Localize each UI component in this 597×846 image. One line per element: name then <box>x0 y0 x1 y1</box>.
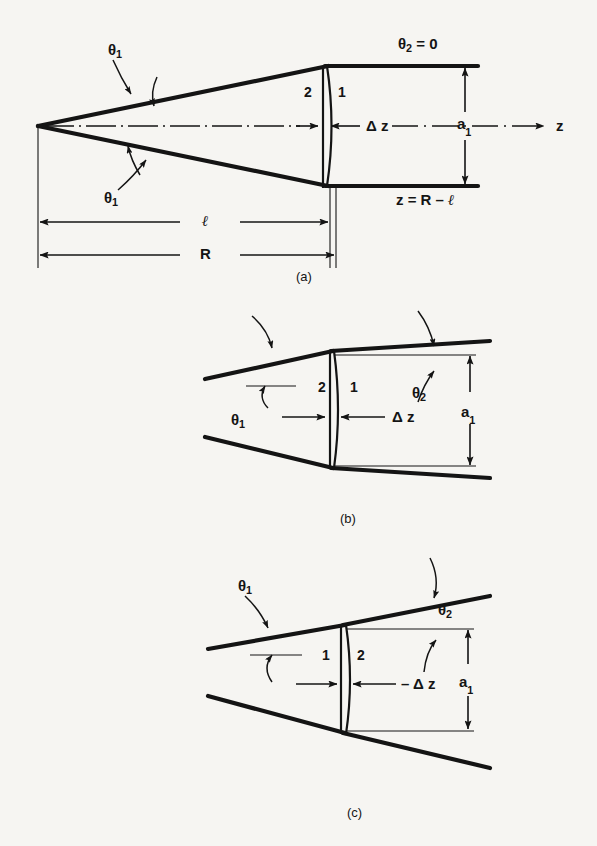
upper-wall-in-b <box>205 351 333 379</box>
label-region-1-c: 1 <box>322 648 330 662</box>
theta1-pointer-c <box>245 596 268 628</box>
label-theta1-top-a: θ1 <box>108 42 122 60</box>
figure-drawing <box>0 0 597 846</box>
label-theta1-top-a-sub: 1 <box>116 48 122 60</box>
label-theta2-c-sub: 2 <box>446 608 452 620</box>
lower-wall-out-b <box>331 468 490 478</box>
cone-lower-wall-a <box>38 126 328 186</box>
theta2-angle-arc-c <box>424 640 436 672</box>
theta1-pointer-b <box>252 316 272 348</box>
label-a1-b: a1 <box>461 404 475 426</box>
label-a1-c-sub: 1 <box>467 684 473 696</box>
lower-wall-out-c <box>343 733 490 768</box>
upper-wall-in-c <box>208 625 345 649</box>
label-theta1-c-sub: 1 <box>246 584 252 596</box>
label-z-axis-a: z <box>556 118 564 133</box>
lower-wall-in-b <box>205 437 333 468</box>
cone-upper-wall-a <box>38 66 328 126</box>
lower-wall-in-c <box>208 696 345 733</box>
theta2-pointer-c <box>430 558 436 598</box>
wavefront-arc-c <box>346 625 350 734</box>
caption-panel-a: (a) <box>296 270 312 283</box>
label-region-2-a: 2 <box>304 85 312 99</box>
label-theta2-b-sub: 2 <box>420 391 426 403</box>
panel-a-geometry <box>38 60 544 268</box>
label-a1-b-sub: 1 <box>469 414 475 426</box>
label-region-2-c: 2 <box>357 648 365 662</box>
label-dim-R-a: R <box>200 246 211 261</box>
label-theta1-bottom-a: θ1 <box>104 190 118 208</box>
label-a1-a: a1 <box>457 116 471 138</box>
label-delta-z-a: Δ z <box>366 118 388 133</box>
caption-panel-c: (c) <box>347 806 362 819</box>
label-z-equation-a: z = R – ℓ <box>396 192 455 208</box>
caption-panel-b: (b) <box>340 512 356 525</box>
label-theta2-c: θ2 <box>438 602 452 620</box>
label-theta1-c: θ1 <box>238 578 252 596</box>
label-a1-c: a1 <box>459 674 473 696</box>
theta1-angle-arc-c <box>267 655 272 682</box>
label-region-1-a: 1 <box>338 85 346 99</box>
wavefront-arc-a <box>327 66 332 186</box>
label-a1-a-sub: 1 <box>465 126 471 138</box>
figure-container: θ1 θ1 θ2 = 0 2 1 Δ z a1 z z = R – ℓ ℓ R … <box>0 0 597 846</box>
theta1-angle-arc-b <box>262 386 268 408</box>
label-theta1-b-sub: 1 <box>239 418 245 430</box>
theta1-bottom-pointer-a <box>118 160 146 190</box>
label-theta1-bottom-a-sub: 1 <box>112 196 118 208</box>
upper-wall-out-b <box>331 341 490 351</box>
upper-wall-out-c <box>343 596 490 625</box>
label-theta1-b: θ1 <box>231 412 245 430</box>
label-dim-l-a: ℓ <box>202 214 208 229</box>
wavefront-arc-b <box>334 351 338 468</box>
label-theta2-b: θ2 <box>412 385 426 403</box>
theta1-top-pointer-a <box>113 60 131 94</box>
theta2-pointer-b <box>418 311 434 346</box>
label-region-2-b: 2 <box>318 380 326 394</box>
label-delta-z-b: Δ z <box>392 409 414 424</box>
label-minus-delta-z-c: – Δ z <box>401 676 435 691</box>
label-z-equation-ell-a: ℓ <box>448 192 454 208</box>
label-theta2-a-rest: = 0 <box>412 35 437 52</box>
panel-b-geometry <box>205 311 490 478</box>
label-theta2-equals-zero-a: θ2 = 0 <box>398 36 438 54</box>
label-region-1-b: 1 <box>350 380 358 394</box>
